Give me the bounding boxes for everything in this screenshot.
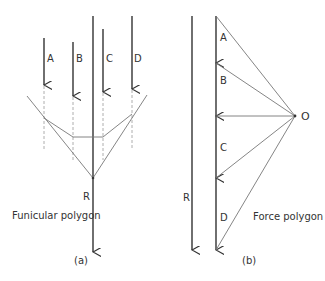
- pole-label: O: [301, 111, 310, 122]
- force-polygon-title: Force polygon: [253, 212, 323, 222]
- force-label-a: A: [47, 54, 54, 64]
- lines-of-action: [44, 86, 132, 160]
- force-label-c: C: [106, 54, 113, 64]
- segment-label-c: C: [220, 143, 227, 153]
- segment-label-b: B: [220, 76, 227, 86]
- segment-label-d: D: [220, 213, 228, 223]
- resultant-label-a: R: [83, 192, 90, 202]
- segment-label-a: A: [220, 33, 227, 43]
- diagram-canvas: [0, 0, 325, 281]
- force-label-b: B: [76, 54, 83, 64]
- force-label-d: D: [134, 54, 142, 64]
- caption-a: (a): [74, 256, 88, 266]
- funicular-title: Funicular polygon: [12, 211, 101, 221]
- caption-b: (b): [242, 256, 256, 266]
- funicular-polygon: [27, 95, 147, 178]
- pole-point: [294, 115, 297, 118]
- resultant-label-b: R: [183, 193, 190, 203]
- force-vectors: [192, 16, 216, 250]
